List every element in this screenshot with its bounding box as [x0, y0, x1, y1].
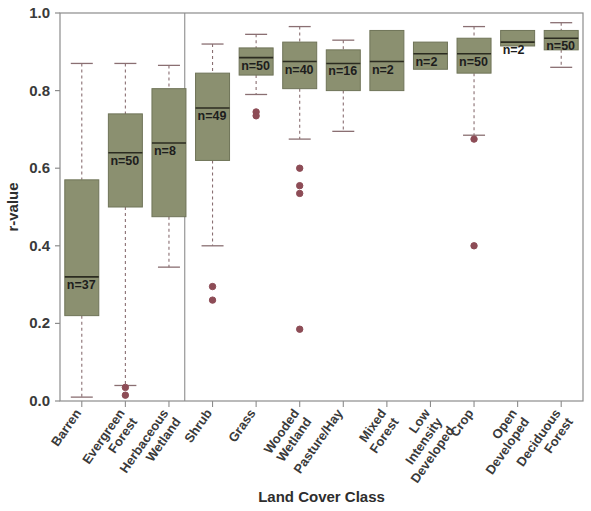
box-plot-grass: n=50	[239, 34, 273, 119]
box-body	[370, 30, 404, 90]
box-body	[65, 180, 99, 316]
outlier-point	[297, 190, 303, 196]
y-tick-label: 0.8	[29, 82, 50, 99]
sample-size-label: n=2	[415, 55, 437, 69]
x-tick-label: Grass	[225, 406, 258, 445]
y-tick-label: 0.2	[29, 314, 50, 331]
y-tick-label: 0.4	[29, 237, 51, 254]
y-axis: 0.00.20.40.60.81.0	[29, 4, 60, 409]
box-plot-chart: 0.00.20.40.60.81.0 n=37n=50n=8n=49n=50n=…	[0, 0, 591, 511]
x-axis: BarrenEvergreenForestHerbaceousWetlandSh…	[48, 401, 576, 486]
outlier-point	[122, 384, 128, 390]
outlier-point	[297, 165, 303, 171]
sample-size-label: n=50	[459, 55, 488, 69]
y-axis-title: r-value	[4, 182, 21, 231]
box-series: n=37n=50n=8n=49n=50n=40n=16n=2n=2n=50n=2…	[65, 23, 578, 399]
sample-size-label: n=50	[241, 59, 270, 73]
outlier-point	[209, 297, 215, 303]
outlier-point	[297, 182, 303, 188]
box-plot-barren: n=37	[65, 63, 99, 397]
sample-size-label: n=50	[110, 154, 139, 168]
x-tick-label-group: Grass	[225, 406, 258, 445]
x-tick-label-group: MixedForest	[354, 406, 402, 456]
outlier-point	[253, 113, 259, 119]
sample-size-label: n=16	[328, 64, 357, 78]
sample-size-label: n=2	[372, 63, 394, 77]
outlier-point	[122, 392, 128, 398]
sample-size-label: n=2	[503, 43, 525, 57]
x-tick-label-group: Crop	[447, 406, 477, 439]
sample-size-label: n=50	[546, 39, 575, 53]
box-plot-open-developed: n=2	[501, 30, 535, 57]
box-plot-shrub: n=49	[196, 44, 230, 303]
x-tick-label-group: Shrub	[181, 406, 215, 445]
x-tick-label-group: DeciduousForest	[513, 406, 576, 478]
x-axis-title: Land Cover Class	[258, 488, 385, 505]
y-tick-label: 1.0	[29, 4, 50, 21]
box-plot-low-intensity-developed: n=2	[413, 42, 447, 69]
box-plot-mixed-forest: n=2	[370, 30, 404, 90]
box-plot-deciduous-forest: n=50	[544, 23, 578, 68]
x-tick-label: Shrub	[181, 406, 215, 445]
sample-size-label: n=49	[198, 109, 227, 123]
x-tick-label: Barren	[48, 406, 84, 449]
outlier-point	[471, 136, 477, 142]
box-plot-evergreen-forest: n=50	[108, 63, 142, 398]
box-plot-pasture-hay: n=16	[326, 40, 360, 131]
box-plot-crop: n=50	[457, 27, 491, 249]
x-tick-label-group: Barren	[48, 406, 84, 449]
outlier-point	[471, 243, 477, 249]
outlier-point	[297, 326, 303, 332]
x-tick-label: Crop	[447, 406, 477, 439]
y-tick-label: 0.6	[29, 159, 50, 176]
sample-size-label: n=37	[67, 278, 96, 292]
sample-size-label: n=8	[154, 144, 176, 158]
sample-size-label: n=40	[285, 63, 314, 77]
axis-titles: Land Cover Classr-value	[4, 182, 385, 505]
x-tick-label-group: LowIntensityDeveloped	[383, 405, 458, 485]
plot-area: 0.00.20.40.60.81.0 n=37n=50n=8n=49n=50n=…	[0, 0, 591, 511]
y-tick-label: 0.0	[29, 392, 50, 409]
box-plot-wooded-wetland: n=40	[283, 27, 317, 333]
outlier-point	[209, 283, 215, 289]
box-plot-herbaceous-wetland: n=8	[152, 65, 186, 267]
